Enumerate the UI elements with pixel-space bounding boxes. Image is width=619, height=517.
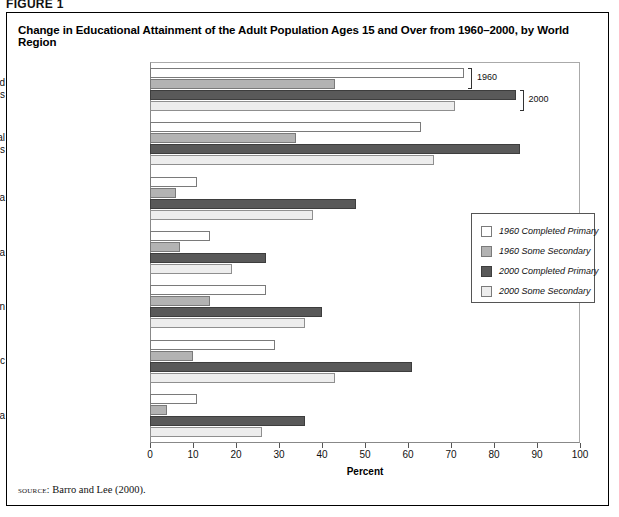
bar: [150, 188, 176, 198]
x-axis-tick-label: 30: [273, 449, 284, 460]
category-label: Middle East- North Africa: [0, 192, 5, 204]
legend-item: 1960 Completed Primary: [481, 221, 594, 241]
bar: [150, 68, 464, 78]
legend-item: 1960 Some Secondary: [481, 241, 594, 261]
x-axis-title: Percent: [150, 466, 580, 477]
source-text: Barro and Lee (2000).: [52, 484, 145, 495]
legend-label: 1960 Some Secondary: [499, 246, 591, 256]
bar: [150, 177, 197, 187]
x-axis-tick: [580, 443, 581, 448]
bar: [150, 90, 516, 100]
category-label: East Asia - Pacific: [0, 355, 5, 367]
figure-page: FIGURE 1 Change in Educational Attainmen…: [0, 0, 619, 517]
bar: [150, 210, 313, 220]
bar: [150, 340, 275, 350]
x-axis-tick-label: 40: [316, 449, 327, 460]
x-axis-tick: [451, 443, 452, 448]
bar: [150, 133, 296, 143]
source-note: source: Barro and Lee (2000).: [18, 484, 146, 495]
x-axis-tick-label: 50: [359, 449, 370, 460]
bar: [150, 351, 193, 361]
x-axis-tick-label: 10: [187, 449, 198, 460]
bar: [150, 242, 180, 252]
x-axis-tick: [236, 443, 237, 448]
bar: [150, 394, 197, 404]
bracket-label: 2000: [529, 94, 549, 104]
bar: [150, 79, 335, 89]
x-axis-tick: [408, 443, 409, 448]
category-label: Sub-Saharan Africa: [0, 247, 5, 259]
bar: [150, 101, 455, 111]
bar: [150, 416, 305, 426]
legend: 1960 Completed Primary1960 Some Secondar…: [471, 213, 595, 303]
bracket-label: 1960: [477, 72, 497, 82]
bar: [150, 296, 210, 306]
bar: [150, 199, 356, 209]
x-axis-tick: [150, 443, 151, 448]
bar: [150, 362, 412, 372]
legend-label: 1960 Completed Primary: [499, 226, 599, 236]
category-label: Transitional Countries: [0, 132, 5, 156]
legend-label: 2000 Completed Primary: [499, 266, 599, 276]
category-label: Latin America - Caribbean: [0, 301, 5, 313]
bar: [150, 155, 434, 165]
bracket-shape: [468, 68, 472, 89]
bar: [150, 373, 335, 383]
chart-title: Change in Educational Attainment of the …: [18, 24, 578, 48]
bar: [150, 405, 167, 415]
category-label: Advanced Countries: [0, 77, 5, 101]
legend-label: 2000 Some Secondary: [499, 286, 591, 296]
bar: [150, 318, 305, 328]
x-axis-tick: [494, 443, 495, 448]
x-axis-tick: [365, 443, 366, 448]
legend-item: 2000 Completed Primary: [481, 261, 594, 281]
bracket-shape: [520, 90, 524, 111]
legend-swatch: [481, 286, 492, 297]
bar: [150, 264, 232, 274]
source-prefix: source:: [18, 485, 50, 495]
legend-item: 2000 Some Secondary: [481, 281, 594, 301]
x-axis-tick-label: 60: [402, 449, 413, 460]
legend-swatch: [481, 246, 492, 257]
bar: [150, 231, 210, 241]
x-axis-tick: [537, 443, 538, 448]
x-axis-tick-label: 90: [531, 449, 542, 460]
x-axis: 0102030405060708090100: [150, 443, 580, 451]
figure-number-label: FIGURE 1: [6, 0, 64, 11]
legend-swatch: [481, 226, 492, 237]
bar: [150, 122, 421, 132]
x-axis-tick-label: 100: [572, 449, 589, 460]
legend-swatch: [481, 266, 492, 277]
x-axis-tick-label: 70: [445, 449, 456, 460]
bar: [150, 307, 322, 317]
x-axis-tick: [322, 443, 323, 448]
x-axis-tick: [193, 443, 194, 448]
x-axis-tick-label: 20: [230, 449, 241, 460]
bar: [150, 427, 262, 437]
x-axis-tick: [279, 443, 280, 448]
x-axis-tick-label: 0: [147, 449, 153, 460]
bar: [150, 144, 520, 154]
x-axis-tick-label: 80: [488, 449, 499, 460]
bar: [150, 253, 266, 263]
bar: [150, 285, 266, 295]
category-label: South Asia: [0, 410, 5, 422]
